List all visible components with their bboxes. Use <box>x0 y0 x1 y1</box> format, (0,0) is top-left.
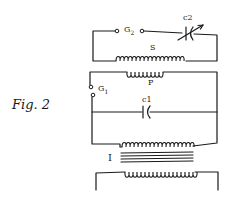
transformer-primary-coil-icon <box>122 143 194 148</box>
g1-terminal-top <box>89 85 93 89</box>
p-label: P <box>148 79 153 87</box>
s-label: S <box>150 44 155 52</box>
g2-label: G2 <box>124 26 134 36</box>
circuit-diagram: Fig. 2 G2 c2 S P G1 c1 I <box>0 0 234 200</box>
c2-label: c2 <box>183 14 193 22</box>
secondary-circuit <box>93 25 217 61</box>
supply-circuit <box>96 172 218 190</box>
transformer-secondary-coil-icon <box>125 172 197 177</box>
g1-label-sub: 1 <box>104 88 108 95</box>
transformer-label: I <box>108 153 112 163</box>
g1-terminal-bottom <box>91 93 95 97</box>
g2-label-sub: 2 <box>130 29 134 36</box>
g2-terminal-left <box>115 29 119 33</box>
transformer-core-icon <box>121 152 193 162</box>
c1-capacitor-icon <box>143 106 150 118</box>
g2-terminal-right <box>140 29 144 33</box>
figure-caption: Fig. 2 <box>12 98 50 111</box>
g1-label: G1 <box>98 85 108 95</box>
c1-label: c1 <box>142 96 152 104</box>
p-coil-icon <box>127 72 163 77</box>
s-coil-icon <box>116 57 184 62</box>
